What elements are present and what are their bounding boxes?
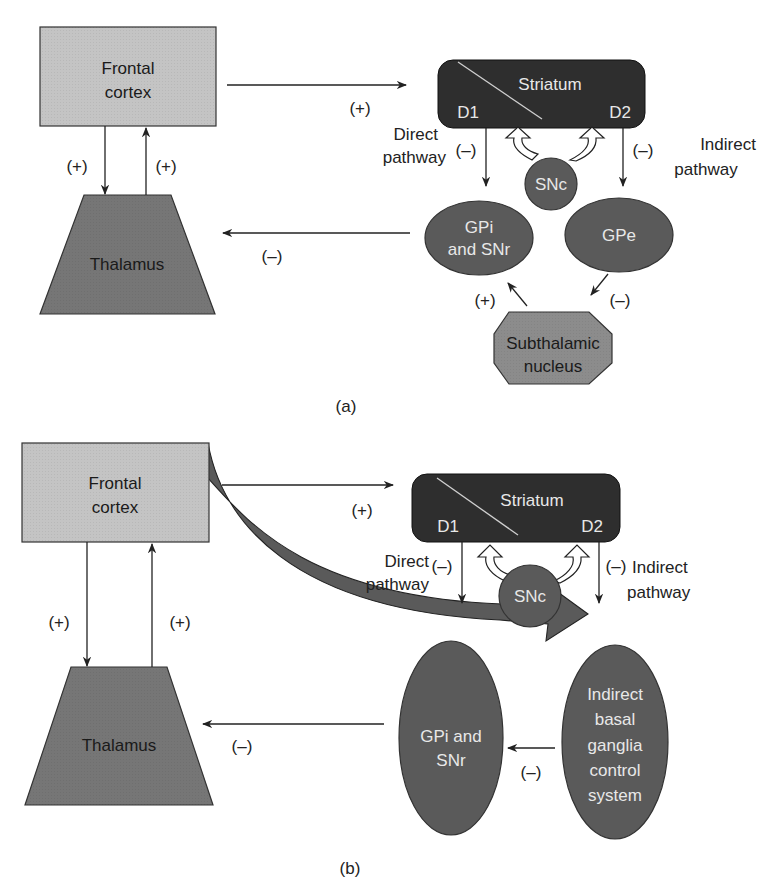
indirect-system-label-b-4: control <box>589 761 640 780</box>
indirect-system-label-b: Indirect <box>587 685 643 704</box>
direct-pathway-label-b: Direct <box>385 552 430 571</box>
frontal-cortex-label-b-2: cortex <box>92 498 139 517</box>
snc-dopamine-arrow-right-b <box>554 545 589 583</box>
sign-stn-to-gpi-a: (+) <box>474 291 495 310</box>
indirect-system-label-b-2: basal <box>595 710 636 729</box>
direct-pathway-label-b-2: pathway <box>366 575 430 594</box>
snc-dopamine-arrow-left-b <box>478 545 510 581</box>
snc-circle-b: SNc <box>499 565 561 627</box>
sign-d2-down-b: (–) <box>606 557 627 576</box>
sign-thalamus-to-cortex-a: (+) <box>155 157 176 176</box>
sign-cortex-to-striatum-b: (+) <box>351 501 372 520</box>
indirect-pathway-label-a: Indirect <box>700 135 756 154</box>
gpi-snr-label-b-2: SNr <box>436 751 466 770</box>
sign-d2-to-gpe-a: (–) <box>633 141 654 160</box>
frontal-cortex-label-a-2: cortex <box>105 83 152 102</box>
gpi-snr-ellipse-a: GPi and SNr <box>425 201 533 275</box>
sign-d1-to-gpi-a: (–) <box>456 141 477 160</box>
panel-b-caption: (b) <box>340 859 361 878</box>
arrow-stn-to-gpi-a <box>508 283 527 306</box>
striatum-box-b: Striatum D1 D2 <box>412 474 620 542</box>
indirect-pathway-label-b-2: pathway <box>627 583 691 602</box>
arrow-gpe-to-stn-a <box>591 274 608 295</box>
stn-label-a-2: nucleus <box>524 357 583 376</box>
subthalamic-nucleus-octagon-a: Subthalamic nucleus <box>494 312 612 384</box>
stn-label-a: Subthalamic <box>506 334 600 353</box>
d1-label-b: D1 <box>437 517 459 536</box>
d2-label-b: D2 <box>581 517 603 536</box>
indirect-system-label-b-3: ganglia <box>588 736 643 755</box>
sign-indirect-to-gpi-b: (–) <box>521 763 542 782</box>
thalamus-trapezoid-b: Thalamus <box>25 667 213 805</box>
indirect-pathway-label-a-2: pathway <box>674 160 738 179</box>
gpe-ellipse-a: GPe <box>565 198 673 272</box>
indirect-pathway-label-b: Indirect <box>632 558 688 577</box>
sign-cortex-to-striatum-a: (+) <box>349 99 370 118</box>
frontal-cortex-box-a: Frontal cortex <box>40 27 216 126</box>
sign-cortex-to-thalamus-a: (+) <box>66 157 87 176</box>
sign-gpi-to-thalamus-b: (–) <box>232 737 253 756</box>
sign-d1-down-b: (–) <box>432 557 453 576</box>
snc-dopamine-arrow-left-a <box>506 127 538 160</box>
gpi-snr-ellipse-b: GPi and SNr <box>399 641 503 835</box>
basal-ganglia-diagram: Frontal cortex Thalamus (+) (+) (+) (–) … <box>0 0 769 890</box>
striatum-label-a: Striatum <box>518 75 581 94</box>
sign-thalamus-to-cortex-b: (+) <box>169 613 190 632</box>
snc-label-a: SNc <box>535 175 568 194</box>
indirect-control-system-ellipse-b: Indirect basal ganglia control system <box>562 645 668 839</box>
sign-gpi-to-thalamus-a: (–) <box>262 247 283 266</box>
snc-dopamine-arrow-right-a <box>570 127 604 161</box>
panel-b: Frontal cortex Thalamus (+) (+) (+) (–) … <box>22 443 691 878</box>
snc-circle-a: SNc <box>525 158 577 210</box>
panel-a-caption: (a) <box>336 397 357 416</box>
d2-label-a: D2 <box>609 103 631 122</box>
striatum-box-a: Striatum D1 D2 <box>438 60 645 128</box>
snc-label-b: SNc <box>514 587 547 606</box>
sign-cortex-to-thalamus-b: (+) <box>48 613 69 632</box>
gpe-label-a: GPe <box>602 226 636 245</box>
thalamus-label-b: Thalamus <box>82 736 157 755</box>
panel-a: Frontal cortex Thalamus (+) (+) (+) (–) … <box>40 27 756 416</box>
striatum-label-b: Striatum <box>500 491 563 510</box>
d1-label-a: D1 <box>457 103 479 122</box>
gpi-snr-label-a-2: and SNr <box>448 240 511 259</box>
frontal-cortex-label-b: Frontal <box>89 474 142 493</box>
indirect-system-label-b-5: system <box>588 786 642 805</box>
thalamus-trapezoid-a: Thalamus <box>40 195 215 314</box>
sign-gpe-to-stn-a: (–) <box>610 291 631 310</box>
frontal-cortex-label-a: Frontal <box>102 59 155 78</box>
direct-pathway-label-a-2: pathway <box>383 148 447 167</box>
direct-pathway-label-a: Direct <box>394 125 439 144</box>
gpi-snr-label-a: GPi <box>465 218 493 237</box>
frontal-cortex-box-b: Frontal cortex <box>22 443 209 542</box>
thalamus-label-a: Thalamus <box>90 255 165 274</box>
gpi-snr-label-b: GPi and <box>420 727 481 746</box>
